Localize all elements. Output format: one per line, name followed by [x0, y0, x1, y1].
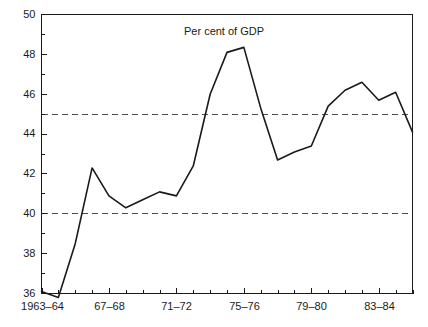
- x-tick-label: 1963–64: [21, 300, 64, 312]
- line-chart: 3638404244464850 1963–6467–6871–7275–767…: [0, 0, 428, 327]
- chart-figure: 3638404244464850 1963–6467–6871–7275–767…: [0, 0, 428, 327]
- data-series-line: [42, 47, 413, 297]
- x-axis-ticks: [43, 288, 414, 294]
- plot-frame: [42, 15, 413, 294]
- y-axis-labels: 3638404244464850: [23, 8, 35, 299]
- y-tick-label: 36: [23, 287, 35, 299]
- x-tick-label: 71–72: [161, 300, 192, 312]
- reference-lines: [42, 114, 413, 214]
- y-tick-label: 44: [23, 127, 35, 139]
- x-tick-label: 75–76: [229, 300, 260, 312]
- x-tick-label: 79–80: [296, 300, 327, 312]
- y-tick-label: 50: [23, 8, 35, 20]
- y-axis-ticks: [42, 15, 47, 294]
- x-axis-labels: 1963–6467–6871–7275–7679–8083–84: [21, 300, 395, 312]
- chart-title: Per cent of GDP: [184, 25, 264, 37]
- plot-border: [42, 15, 413, 294]
- x-tick-label: 67–68: [94, 300, 125, 312]
- x-tick-label: 83–84: [364, 300, 395, 312]
- y-tick-label: 48: [23, 48, 35, 60]
- y-tick-label: 46: [23, 88, 35, 100]
- y-tick-label: 38: [23, 247, 35, 259]
- y-tick-label: 42: [23, 167, 35, 179]
- y-tick-label: 40: [23, 207, 35, 219]
